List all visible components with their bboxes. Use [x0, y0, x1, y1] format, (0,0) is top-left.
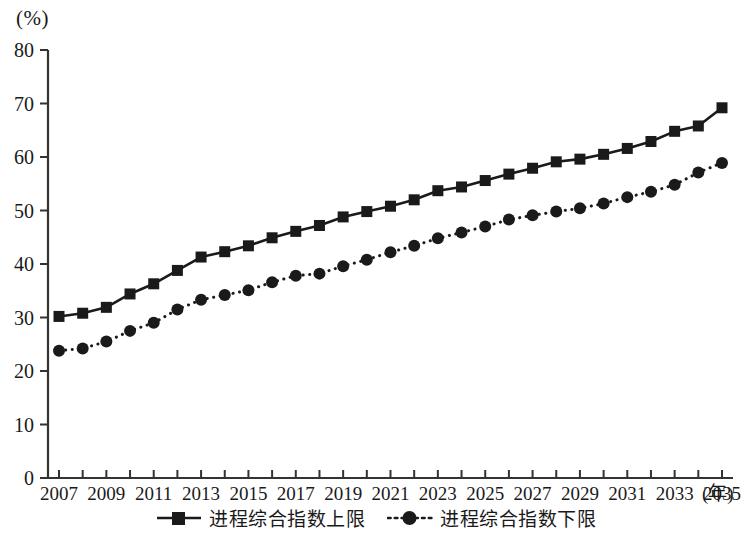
x-axis-tick-label: 2029 — [561, 483, 599, 504]
chart-figure: (%) 01020304050607080 200720092011201320… — [0, 0, 752, 535]
data-point-marker[interactable] — [266, 276, 278, 288]
data-point-marker[interactable] — [527, 163, 538, 174]
data-point-marker[interactable] — [621, 191, 633, 203]
data-point-marker[interactable] — [195, 294, 207, 306]
data-point-marker[interactable] — [314, 220, 325, 231]
data-point-marker[interactable] — [338, 211, 349, 222]
data-point-marker[interactable] — [503, 214, 515, 226]
data-point-marker[interactable] — [196, 252, 207, 263]
data-point-marker[interactable] — [716, 157, 728, 169]
legend-entry-upper[interactable]: 进程综合指数上限 — [156, 504, 365, 531]
legend-entry-lower[interactable]: 进程综合指数下限 — [387, 504, 596, 531]
data-point-marker[interactable] — [172, 265, 183, 276]
data-point-marker[interactable] — [385, 246, 397, 258]
legend-square-marker-icon — [156, 510, 202, 526]
data-point-marker[interactable] — [171, 303, 183, 315]
data-point-marker[interactable] — [432, 232, 444, 244]
x-axis-tick-label: 2007 — [40, 483, 78, 504]
data-point-marker[interactable] — [361, 206, 372, 217]
data-point-marker[interactable] — [503, 169, 514, 180]
data-point-marker[interactable] — [692, 167, 704, 179]
data-point-marker[interactable] — [456, 181, 467, 192]
x-axis-tick-label: 2017 — [277, 483, 315, 504]
data-point-marker[interactable] — [267, 232, 278, 243]
y-axis-tick-label: 10 — [14, 414, 34, 436]
data-series-layer — [53, 102, 728, 356]
data-point-marker[interactable] — [148, 278, 159, 289]
y-axis-tick-label: 50 — [14, 200, 34, 222]
data-point-marker[interactable] — [290, 226, 301, 237]
data-point-marker[interactable] — [669, 126, 680, 137]
data-point-marker[interactable] — [125, 288, 136, 299]
data-point-marker[interactable] — [313, 268, 325, 280]
x-axis-tick-label: 2031 — [608, 483, 646, 504]
data-point-marker[interactable] — [219, 246, 230, 257]
data-point-marker[interactable] — [456, 226, 468, 238]
data-point-marker[interactable] — [551, 156, 562, 167]
x-axis-tick-label: 2021 — [372, 483, 410, 504]
y-axis-tick-group: 01020304050607080 — [14, 39, 48, 489]
data-point-marker[interactable] — [645, 136, 656, 147]
x-axis-tick-label: 2033 — [656, 483, 694, 504]
data-point-marker[interactable] — [242, 284, 254, 296]
data-point-marker[interactable] — [598, 198, 610, 210]
data-point-marker[interactable] — [337, 260, 349, 272]
y-axis-tick-label: 60 — [14, 146, 34, 168]
data-point-marker[interactable] — [409, 194, 420, 205]
x-axis-tick-label: 2013 — [182, 483, 220, 504]
data-point-marker[interactable] — [243, 240, 254, 251]
data-point-marker[interactable] — [550, 206, 562, 218]
x-axis-tick-label: 2009 — [87, 483, 125, 504]
y-axis-tick-label: 20 — [14, 360, 34, 382]
y-axis-tick-label: 80 — [14, 39, 34, 61]
x-axis-tick-label: 2011 — [135, 483, 172, 504]
legend-circle-marker-icon — [387, 510, 433, 526]
data-point-marker[interactable] — [574, 154, 585, 165]
x-axis-tick-label: 2023 — [419, 483, 457, 504]
legend-label-lower: 进程综合指数下限 — [440, 504, 596, 531]
data-point-marker[interactable] — [385, 201, 396, 212]
line-chart-plot: 01020304050607080 2007200920112013201520… — [0, 0, 752, 535]
data-point-marker[interactable] — [361, 254, 373, 266]
data-point-marker[interactable] — [100, 336, 112, 348]
data-point-marker[interactable] — [54, 311, 65, 322]
data-point-marker[interactable] — [77, 343, 89, 355]
x-axis-title: (年) — [702, 483, 734, 505]
x-axis-tick-label: 2019 — [324, 483, 362, 504]
data-point-marker[interactable] — [622, 143, 633, 154]
data-point-marker[interactable] — [574, 202, 586, 214]
data-point-marker[interactable] — [480, 175, 491, 186]
data-point-marker[interactable] — [290, 270, 302, 282]
data-point-marker[interactable] — [645, 186, 657, 198]
data-point-marker[interactable] — [53, 345, 65, 357]
data-point-marker[interactable] — [669, 179, 681, 191]
data-point-marker[interactable] — [148, 317, 160, 329]
legend-label-upper: 进程综合指数上限 — [209, 504, 365, 531]
data-point-marker[interactable] — [432, 185, 443, 196]
chart-legend: 进程综合指数上限 进程综合指数下限 — [0, 504, 752, 531]
data-point-marker[interactable] — [77, 308, 88, 319]
data-point-marker[interactable] — [527, 209, 539, 221]
y-axis-tick-label: 70 — [14, 93, 34, 115]
x-axis-tick-label: 2027 — [514, 483, 552, 504]
data-point-marker[interactable] — [124, 325, 136, 337]
x-axis-label-group: 2007200920112013201520172019202120232025… — [40, 483, 741, 504]
data-point-marker[interactable] — [101, 302, 112, 313]
x-axis-tick-label: 2015 — [229, 483, 267, 504]
data-point-marker[interactable] — [408, 240, 420, 252]
data-point-marker[interactable] — [717, 102, 728, 113]
data-point-marker[interactable] — [693, 120, 704, 131]
y-axis-tick-label: 30 — [14, 307, 34, 329]
data-point-marker[interactable] — [479, 221, 491, 233]
data-point-marker[interactable] — [219, 289, 231, 301]
data-point-marker[interactable] — [598, 149, 609, 160]
y-axis-tick-label: 40 — [14, 253, 34, 275]
x-axis-tick-group — [59, 470, 722, 478]
y-axis-tick-label: 0 — [24, 467, 34, 489]
x-axis-tick-label: 2025 — [466, 483, 504, 504]
